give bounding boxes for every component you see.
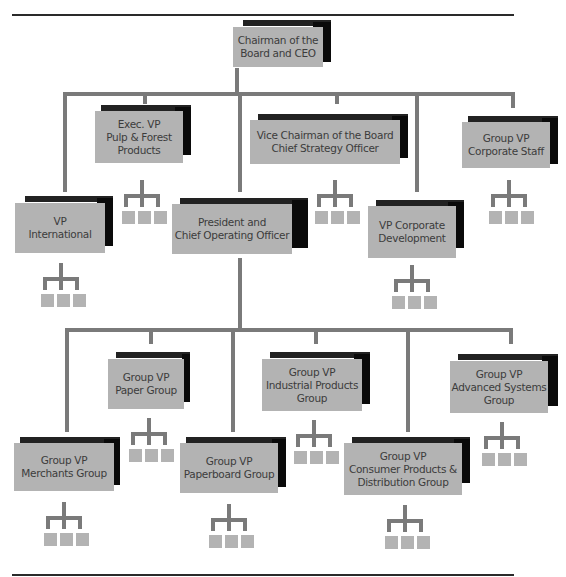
node-label: Group bbox=[266, 392, 358, 405]
node-vp-international[interactable]: VP International bbox=[15, 196, 113, 256]
node-label: VP Corporate bbox=[378, 219, 445, 232]
bottom-rule bbox=[12, 574, 514, 576]
suborg-icon-merchants bbox=[42, 502, 86, 542]
suborg-icon-industrial bbox=[292, 420, 336, 460]
node-label: International bbox=[28, 228, 91, 241]
node-vice-chairman[interactable]: Vice Chairman of the Board Chief Strateg… bbox=[250, 114, 408, 166]
node-president-coo[interactable]: President and Chief Operating Officer bbox=[172, 198, 308, 256]
node-label: Corporate Staff bbox=[468, 145, 544, 158]
suborg-icon-vice-chairman bbox=[313, 180, 357, 220]
connector-advanced bbox=[509, 328, 513, 344]
node-chairman-ceo[interactable]: Chairman of the Board and CEO bbox=[233, 20, 331, 70]
node-advanced-systems[interactable]: Group VP Advanced Systems Group bbox=[450, 354, 558, 414]
node-label: Group VP bbox=[21, 454, 107, 467]
suborg-icon-paper bbox=[127, 418, 171, 458]
connector-level2-bus bbox=[65, 328, 513, 332]
node-label: Group bbox=[451, 394, 546, 407]
node-label: Group VP bbox=[266, 366, 358, 379]
node-label: Advanced Systems bbox=[451, 381, 546, 394]
node-label: Development bbox=[378, 232, 445, 245]
node-paper-group[interactable]: Group VP Paper Group bbox=[108, 352, 190, 410]
connector-level1-bus bbox=[63, 92, 515, 96]
suborg-icon-vp-corp-dev bbox=[390, 265, 434, 305]
node-label: Merchants Group bbox=[21, 467, 107, 480]
connector-vice-chairman bbox=[335, 92, 339, 104]
connector-vp-international bbox=[63, 92, 67, 192]
node-label: Pulp & Forest bbox=[106, 131, 172, 144]
connector-merchants bbox=[65, 328, 69, 432]
suborg-icon-consumer bbox=[383, 505, 427, 545]
suborg-icon-corp-staff bbox=[487, 180, 531, 220]
node-vp-corp-dev[interactable]: VP Corporate Development bbox=[368, 200, 464, 258]
suborg-icon-vp-international bbox=[39, 263, 83, 303]
node-exec-vp-pulp[interactable]: Exec. VP Pulp & Forest Products bbox=[95, 105, 191, 165]
node-label: Vice Chairman of the Board bbox=[257, 129, 394, 142]
connector-vp-corp-dev bbox=[415, 92, 419, 192]
node-paperboard-group[interactable]: Group VP Paperboard Group bbox=[180, 437, 286, 495]
connector-consumer bbox=[406, 328, 410, 432]
connector-president-stem bbox=[238, 258, 242, 332]
node-group-vp-corp-staff[interactable]: Group VP Corporate Staff bbox=[462, 116, 558, 170]
node-label: Chief Operating Officer bbox=[175, 229, 289, 242]
node-label: Exec. VP bbox=[106, 118, 172, 131]
node-label: Chairman of the bbox=[238, 34, 318, 47]
node-label: Chief Strategy Officer bbox=[257, 142, 394, 155]
node-industrial-products[interactable]: Group VP Industrial Products Group bbox=[262, 352, 370, 412]
connector-exec-vp bbox=[143, 92, 147, 104]
connector-paperboard bbox=[231, 328, 235, 432]
node-label: Products bbox=[106, 144, 172, 157]
connector-industrial bbox=[314, 328, 318, 344]
node-label: Group VP bbox=[115, 371, 177, 384]
node-label: Group VP bbox=[451, 368, 546, 381]
node-consumer-products[interactable]: Group VP Consumer Products & Distributio… bbox=[344, 437, 470, 497]
suborg-icon-exec-vp bbox=[120, 180, 164, 220]
node-label: President and bbox=[175, 216, 289, 229]
connector-corp-staff bbox=[511, 92, 515, 108]
node-label: Board and CEO bbox=[238, 47, 318, 60]
suborg-icon-paperboard bbox=[207, 504, 251, 544]
connector-president bbox=[238, 92, 242, 192]
node-label: Distribution Group bbox=[349, 476, 457, 489]
node-label: Group VP bbox=[184, 455, 275, 468]
node-label: Group VP bbox=[468, 132, 544, 145]
node-label: Paper Group bbox=[115, 384, 177, 397]
node-label: Group VP bbox=[349, 450, 457, 463]
top-rule bbox=[12, 14, 514, 16]
node-label: Paperboard Group bbox=[184, 468, 275, 481]
node-merchants-group[interactable]: Group VP Merchants Group bbox=[14, 437, 120, 493]
node-label: VP bbox=[28, 215, 91, 228]
node-label: Consumer Products & bbox=[349, 463, 457, 476]
node-label: Industrial Products bbox=[266, 379, 358, 392]
connector-paper bbox=[149, 328, 153, 344]
suborg-icon-advanced bbox=[480, 422, 524, 462]
